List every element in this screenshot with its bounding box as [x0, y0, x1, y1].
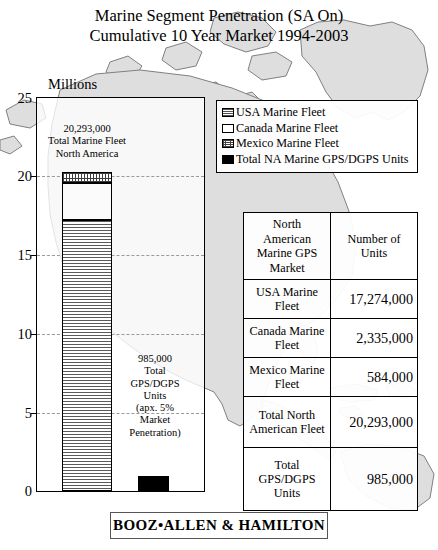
bar-segment-usa-marine-fleet[interactable] — [62, 220, 112, 491]
y-tick-label-5: 5 — [2, 406, 32, 420]
annotation-total-marine-fleet: 20,293,000 Total Marine Fleet North Amer… — [38, 123, 136, 160]
annotation-gps-line-7: Penetration) — [117, 427, 193, 439]
table-header-row: North American Marine GPS Market Number … — [244, 213, 418, 280]
y-axis-units-label: Millions — [48, 76, 97, 92]
legend-label-total-na-gps-units: Total NA Marine GPS/DGPS Units — [236, 152, 409, 167]
bar-segment-canada-marine-fleet[interactable] — [62, 183, 112, 220]
legend-item-total-na-gps-units[interactable]: Total NA Marine GPS/DGPS Units — [222, 152, 412, 168]
bar-total-na-gps-dgps-units[interactable] — [138, 476, 169, 491]
bar-total-marine-fleet[interactable] — [62, 172, 112, 491]
table-cell-value-canada: 2,335,000 — [331, 319, 418, 358]
y-tick-label-15: 15 — [2, 248, 32, 262]
table-header-market: North American Marine GPS Market — [244, 213, 331, 280]
table-cell-label-canada: Canada Marine Fleet — [244, 319, 331, 358]
legend-label-usa-marine-fleet: USA Marine Fleet — [236, 105, 325, 120]
legend-item-mexico-marine-fleet[interactable]: Mexico Marine Fleet — [222, 136, 412, 152]
table-cell-label-total-gps: Total GPS/DGPS Units — [244, 448, 331, 511]
annotation-fleet-line-2: Total Marine Fleet — [38, 135, 136, 147]
table-row: USA Marine Fleet 17,274,000 — [244, 280, 418, 319]
table-cell-label-total-fleet: Total North American Fleet — [244, 397, 331, 448]
table-cell-value-total-fleet: 20,293,000 — [331, 397, 418, 448]
legend-swatch-grid-icon — [222, 139, 234, 148]
chart-title: Marine Segment Penetration (SA On) Cumul… — [0, 6, 438, 46]
annotation-gps-units: 985,000 Total GPS/DGPS Units (apx. 5% Ma… — [117, 353, 193, 439]
legend-label-canada-marine-fleet: Canada Marine Fleet — [236, 121, 338, 136]
y-axis-tick-labels: 25 20 15 10 5 0 — [0, 0, 36, 550]
chart-title-line-2: Cumulative 10 Year Market 1994-2003 — [0, 26, 438, 46]
legend-swatch-black-icon — [222, 155, 234, 164]
annotation-gps-line-2: Total — [117, 365, 193, 377]
table-cell-value-total-gps: 985,000 — [331, 448, 418, 511]
table-row: Mexico Marine Fleet 584,000 — [244, 358, 418, 397]
table-cell-label-usa: USA Marine Fleet — [244, 280, 331, 319]
bar-segment-mexico-marine-fleet[interactable] — [62, 172, 112, 183]
table-row: Total GPS/DGPS Units 985,000 — [244, 448, 418, 511]
annotation-gps-line-6: Market — [117, 414, 193, 426]
annotation-fleet-line-3: North America — [38, 148, 136, 160]
legend-label-mexico-marine-fleet: Mexico Marine Fleet — [236, 136, 339, 151]
company-logo-footer: BOOZ•ALLEN & HAMILTON — [110, 512, 328, 539]
table-cell-label-mexico: Mexico Marine Fleet — [244, 358, 331, 397]
legend-swatch-white-icon — [222, 124, 234, 133]
annotation-gps-line-5: (apx. 5% — [117, 402, 193, 414]
legend-swatch-horizontal-lines-icon — [222, 108, 234, 117]
y-tick-label-25: 25 — [2, 91, 32, 105]
legend-item-usa-marine-fleet[interactable]: USA Marine Fleet — [222, 105, 412, 121]
y-tick-label-20: 20 — [2, 169, 32, 183]
table-cell-value-mexico: 584,000 — [331, 358, 418, 397]
y-tick-label-0: 0 — [2, 484, 32, 498]
legend-item-canada-marine-fleet[interactable]: Canada Marine Fleet — [222, 121, 412, 137]
company-name: BOOZ•ALLEN & HAMILTON — [113, 517, 325, 534]
chart-legend: USA Marine Fleet Canada Marine Fleet Mex… — [216, 100, 418, 173]
table-row: Total North American Fleet 20,293,000 — [244, 397, 418, 448]
annotation-gps-line-1: 985,000 — [117, 353, 193, 365]
north-american-marine-gps-market-table: North American Marine GPS Market Number … — [243, 212, 418, 511]
annotation-gps-line-3: GPS/DGPS — [117, 378, 193, 390]
annotation-fleet-line-1: 20,293,000 — [38, 123, 136, 135]
table-cell-value-usa: 17,274,000 — [331, 280, 418, 319]
y-tick-label-10: 10 — [2, 327, 32, 341]
table-row: Canada Marine Fleet 2,335,000 — [244, 319, 418, 358]
chart-title-line-1: Marine Segment Penetration (SA On) — [0, 6, 438, 26]
annotation-gps-line-4: Units — [117, 390, 193, 402]
table-header-units: Number of Units — [331, 213, 418, 280]
